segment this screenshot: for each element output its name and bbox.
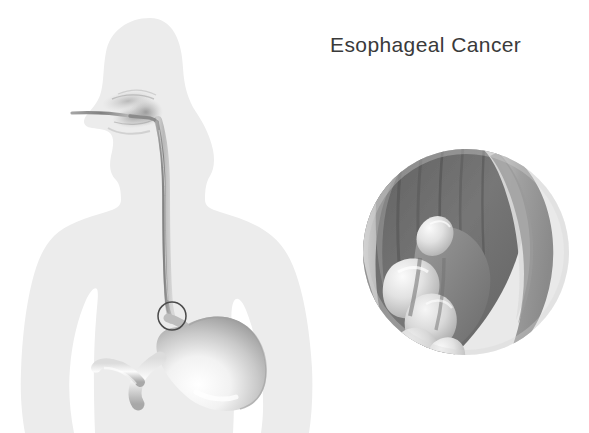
illustration-canvas: Esophageal Cancer	[0, 0, 589, 433]
page-title: Esophageal Cancer	[330, 33, 521, 57]
inset-content	[354, 133, 569, 380]
magnified-tumor-inset	[0, 0, 589, 433]
